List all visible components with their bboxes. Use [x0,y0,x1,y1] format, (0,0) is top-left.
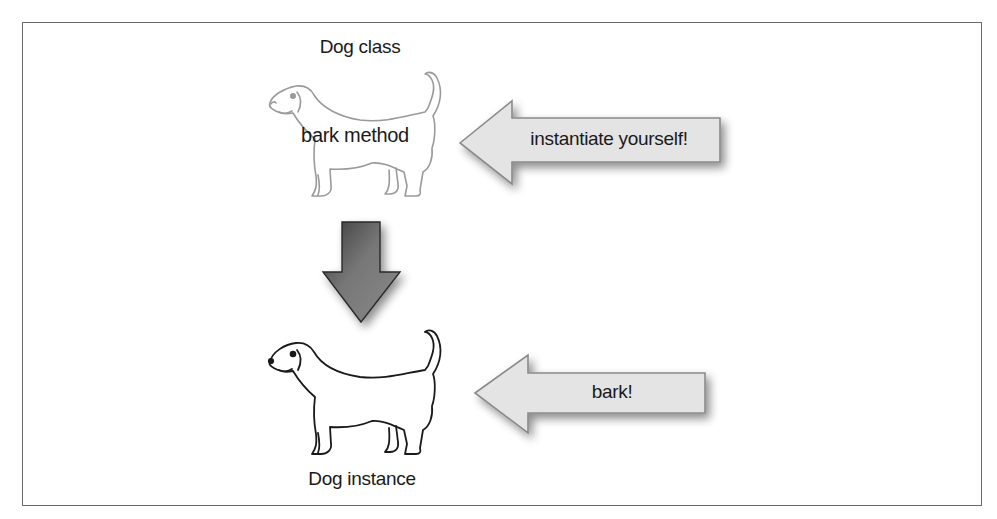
diagram-canvas [0,0,997,519]
down-arrow-icon [323,222,400,322]
class-method-label: bark method [301,124,409,147]
instantiate-arrow-label: instantiate yourself! [530,128,687,150]
bark-arrow-label: bark! [592,381,633,403]
instance-title: Dog instance [308,468,415,490]
bark-arrow-icon [475,355,705,433]
dog-outline-icon [269,330,441,454]
class-title: Dog class [320,36,401,58]
